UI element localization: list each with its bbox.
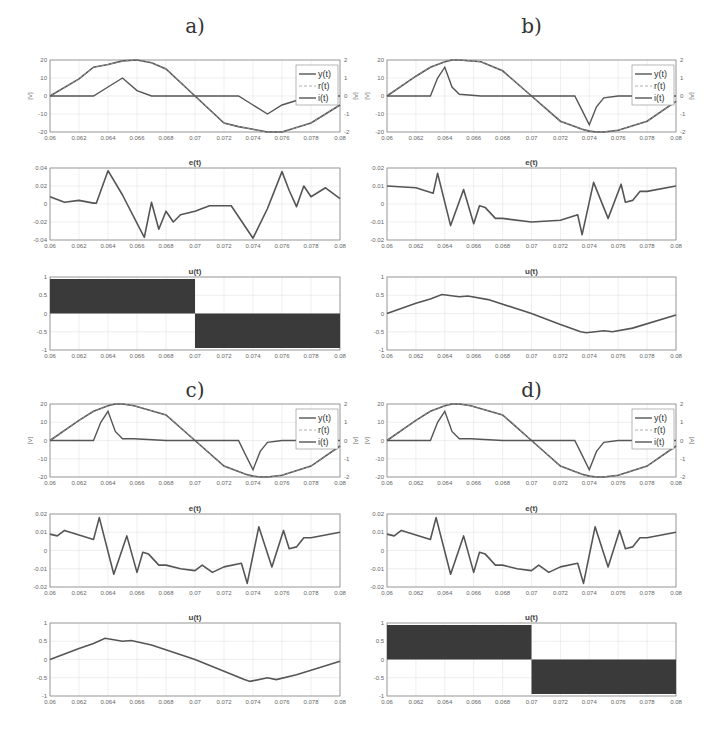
y-tick-label: -0.02 [33, 219, 47, 225]
x-tick-label: 0.072 [216, 243, 232, 249]
y-tick-label: 1 [44, 620, 48, 626]
x-tick-label: 0.08 [670, 480, 682, 486]
x-tick-label: 0.08 [334, 590, 346, 596]
x-tick-label: 0.064 [437, 480, 453, 486]
x-tick-label: 0.062 [71, 480, 87, 486]
x-tick-label: 0.068 [158, 480, 174, 486]
y-tick-label: 20 [40, 57, 47, 63]
x-tick-label: 0.064 [100, 353, 116, 359]
right-y-tick-label: 0 [680, 438, 684, 444]
x-tick-label: 0.074 [582, 699, 598, 705]
x-tick-label: 0.064 [437, 135, 453, 141]
x-tick-label: 0.066 [129, 243, 145, 249]
x-tick-label: 0.064 [437, 243, 453, 249]
x-tick-label: 0.066 [466, 699, 482, 705]
legend-entry: i(t) [654, 93, 665, 103]
switching-band-positive [50, 279, 195, 314]
error-plot-title: e(t) [525, 504, 538, 513]
x-tick-label: 0.068 [495, 353, 511, 359]
x-tick-label: 0.078 [640, 699, 656, 705]
x-tick-label: 0.062 [71, 590, 87, 596]
x-tick-label: 0.078 [640, 353, 656, 359]
x-tick-label: 0.078 [303, 243, 319, 249]
legend: y(t)r(t)i(t) [632, 409, 674, 449]
y-tick-label: 0 [44, 438, 48, 444]
right-y-tick-label: 2 [344, 57, 348, 63]
x-tick-label: 0.064 [100, 699, 116, 705]
axes-error-a: 0.060.0620.0640.0660.0680.070.0720.0740.… [33, 165, 346, 249]
y-tick-label: 1 [381, 274, 385, 280]
x-tick-label: 0.08 [670, 353, 682, 359]
y-tick-label: -20 [375, 474, 384, 480]
x-tick-label: 0.078 [303, 135, 319, 141]
right-y-tick-label: 0 [344, 438, 348, 444]
legend-entry: r(t) [654, 425, 666, 435]
right-y-axis-label: [A] [689, 92, 695, 100]
right-y-tick-label: -2 [680, 474, 686, 480]
y-tick-label: -0.02 [370, 584, 384, 590]
y-tick-label: 0.02 [372, 165, 384, 171]
x-tick-label: 0.08 [334, 243, 346, 249]
x-tick-label: 0.07 [526, 480, 538, 486]
legend: y(t)r(t)i(t) [296, 409, 338, 449]
x-tick-label: 0.078 [640, 590, 656, 596]
error-plot-title: e(t) [189, 504, 202, 513]
x-tick-label: 0.06 [44, 480, 56, 486]
x-tick-label: 0.062 [408, 699, 424, 705]
x-tick-label: 0.066 [129, 135, 145, 141]
switching-band-negative [532, 660, 677, 695]
x-tick-label: 0.07 [526, 243, 538, 249]
y-tick-label: 0.5 [376, 292, 385, 298]
x-tick-label: 0.064 [100, 480, 116, 486]
x-tick-label: 0.076 [611, 135, 627, 141]
y-tick-label: -0.04 [33, 237, 47, 243]
y-tick-label: -1 [379, 347, 385, 353]
legend-entry: y(t) [654, 69, 667, 79]
y-tick-label: -0.5 [374, 675, 385, 681]
x-tick-label: 0.06 [44, 243, 56, 249]
y-tick-label: 0 [381, 548, 385, 554]
x-tick-label: 0.068 [158, 699, 174, 705]
y-tick-label: -0.5 [37, 329, 48, 335]
right-y-tick-label: -2 [680, 129, 686, 135]
legend-entry: i(t) [654, 437, 665, 447]
y-tick-label: -10 [38, 456, 47, 462]
x-tick-label: 0.076 [274, 699, 290, 705]
right-y-tick-label: 2 [680, 401, 684, 407]
x-tick-label: 0.062 [408, 480, 424, 486]
x-tick-label: 0.07 [189, 353, 201, 359]
y-tick-label: 0.01 [372, 183, 384, 189]
x-tick-label: 0.068 [495, 480, 511, 486]
y-tick-label: -0.5 [37, 675, 48, 681]
right-y-tick-label: 1 [680, 419, 684, 425]
y-tick-label: 0.02 [35, 511, 47, 517]
x-tick-label: 0.078 [303, 353, 319, 359]
x-tick-label: 0.068 [158, 353, 174, 359]
x-tick-label: 0.074 [245, 353, 261, 359]
x-tick-label: 0.066 [466, 243, 482, 249]
x-tick-label: 0.072 [216, 590, 232, 596]
x-tick-label: 0.06 [381, 699, 393, 705]
x-tick-label: 0.076 [274, 480, 290, 486]
x-tick-label: 0.08 [334, 135, 346, 141]
y-tick-label: 0 [381, 438, 385, 444]
y-tick-label: -20 [38, 129, 47, 135]
y-tick-label: -10 [375, 111, 384, 117]
x-tick-label: 0.07 [189, 590, 201, 596]
x-tick-label: 0.076 [611, 353, 627, 359]
x-tick-label: 0.08 [334, 353, 346, 359]
x-tick-label: 0.068 [495, 135, 511, 141]
x-tick-label: 0.08 [334, 699, 346, 705]
legend-entry: i(t) [318, 437, 329, 447]
x-tick-label: 0.07 [189, 135, 201, 141]
y-tick-label: -0.02 [33, 584, 47, 590]
x-tick-label: 0.074 [582, 480, 598, 486]
y-tick-label: 0 [381, 311, 385, 317]
switching-band-positive [387, 625, 532, 660]
y-tick-label: 0.5 [376, 638, 385, 644]
x-tick-label: 0.076 [274, 243, 290, 249]
right-y-axis-label: [A] [353, 92, 359, 100]
x-tick-label: 0.078 [640, 135, 656, 141]
right-y-tick-label: -1 [344, 111, 350, 117]
x-tick-label: 0.066 [466, 353, 482, 359]
